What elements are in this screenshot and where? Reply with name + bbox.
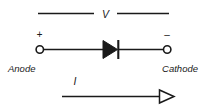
anode-terminal-node: [36, 46, 43, 53]
current-annotation: I: [62, 75, 174, 103]
cathode-label: Cathode: [162, 63, 198, 74]
voltage-annotation: V: [38, 8, 169, 20]
voltage-label: V: [102, 8, 110, 20]
cathode-terminal-node: [164, 46, 171, 53]
cathode-polarity-sign: –: [163, 29, 170, 40]
diode-diagram: V + – Anode Cathode I: [0, 0, 206, 108]
diode-symbol: [103, 40, 118, 59]
current-arrow-head: [160, 90, 175, 103]
current-label: I: [74, 75, 77, 87]
anode-polarity-sign: +: [37, 29, 43, 40]
diagram-canvas: V + – Anode Cathode I: [0, 0, 206, 108]
anode-label: Anode: [7, 63, 35, 74]
diode-triangle: [103, 41, 118, 59]
